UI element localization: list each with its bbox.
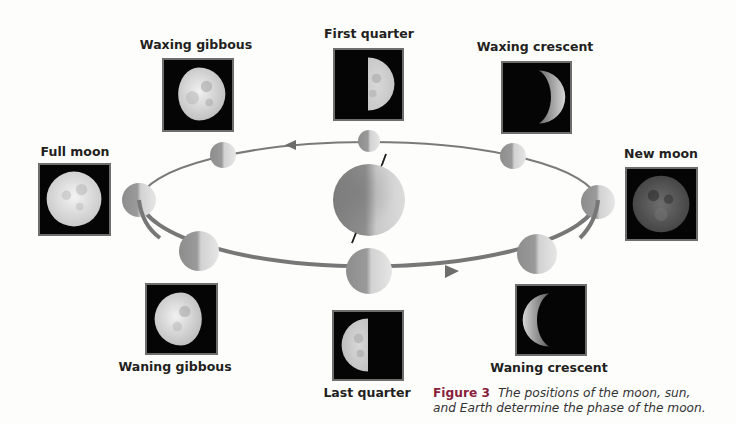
label-waxing-gibbous: Waxing gibbous [140,37,252,52]
photo-full-moon [38,163,111,236]
photo-waning-gibbous [145,283,218,355]
first-quarter-moon-icon [335,50,402,119]
earth [333,164,405,236]
figure-caption: Figure 3The positions of the moon, sun, … [433,386,706,416]
caption-line-1: The positions of the moon, sun, [498,386,690,400]
arrow-left-icon [285,140,296,150]
photo-last-quarter [332,310,404,381]
label-full-moon: Full moon [41,144,110,159]
label-first-quarter: First quarter [324,26,414,41]
photo-first-quarter [333,48,404,121]
arrow-right-icon [445,265,459,278]
full-moon-icon [40,165,109,234]
waning-gibbous-moon-icon [147,285,216,353]
waxing-gibbous-moon-icon [164,60,232,130]
orbit-moon-waning-crescent [517,234,557,274]
orbit-moon-waxing-gibbous [210,142,236,168]
photo-waning-crescent [515,284,587,356]
label-waxing-crescent: Waxing crescent [477,39,594,54]
caption-line-2: and Earth determine the phase of the moo… [433,401,706,416]
last-quarter-moon-icon [334,312,402,379]
figure-number: Figure 3 [433,386,490,400]
photo-new-moon [625,167,698,241]
label-waning-crescent: Waning crescent [490,360,607,375]
new-moon-icon [627,169,696,239]
orbit-moon-waning-gibbous [179,231,219,271]
orbit-moon-last-quarter [346,248,392,294]
label-new-moon: New moon [624,146,698,161]
waning-crescent-moon-icon [517,286,585,354]
photo-waxing-crescent [501,61,572,134]
label-waning-gibbous: Waning gibbous [118,359,231,374]
moon-phases-diagram: Waxing gibbous First quarter Waxing cres… [0,0,736,424]
orbit-moon-waxing-crescent [500,143,526,169]
waxing-crescent-moon-icon [503,63,570,132]
photo-waxing-gibbous [162,58,234,132]
label-last-quarter: Last quarter [323,385,410,400]
orbit-moon-first-quarter [358,130,380,152]
